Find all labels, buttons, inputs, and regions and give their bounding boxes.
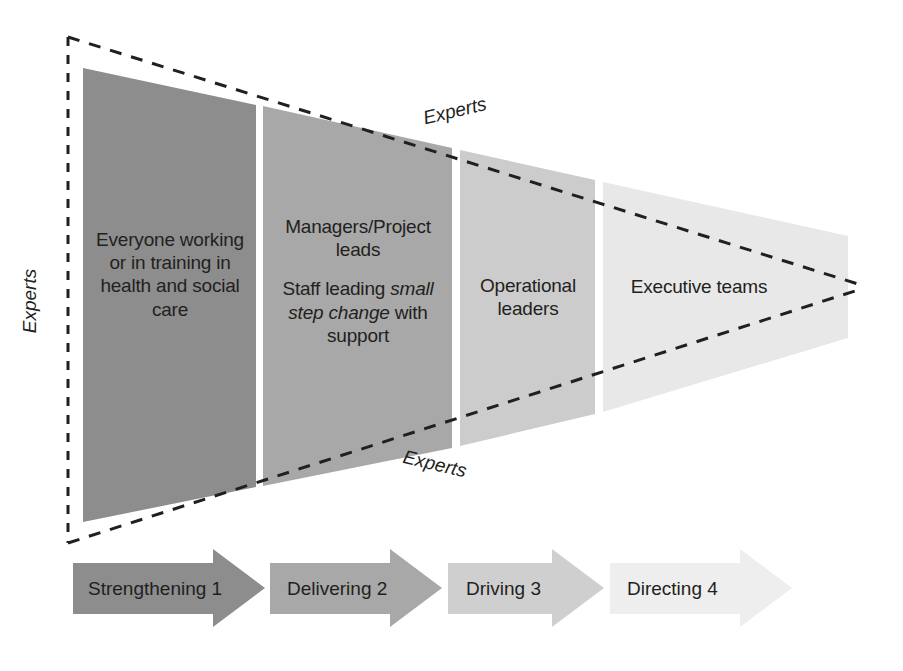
arrow-label-strengthening: Strengthening 1	[88, 578, 222, 600]
arrow-label-delivering: Delivering 2	[287, 578, 387, 600]
experts-label-left: Experts	[19, 241, 41, 361]
experts-label-left-wrap: Experts	[0, 248, 60, 358]
band-label-delivering-role: Managers/Project leads	[266, 215, 450, 261]
band-label-delivering-detail: Staff leading small step change with sup…	[266, 277, 450, 347]
arrow-label-directing: Directing 4	[627, 578, 718, 600]
band-label-delivering: Managers/Project leads Staff leading sma…	[266, 215, 450, 347]
band-label-directing-text: Executive teams	[606, 275, 792, 298]
delivering-detail-pre: Staff leading	[282, 278, 390, 299]
band-label-driving-text: Operational leaders	[462, 274, 594, 320]
diagram-canvas: Everyone working or in training in healt…	[0, 0, 903, 671]
band-label-driving: Operational leaders	[462, 274, 594, 320]
band-label-directing: Executive teams	[606, 275, 792, 298]
band-label-strengthening: Everyone working or in training in healt…	[86, 228, 254, 321]
band-label-strengthening-text: Everyone working or in training in healt…	[86, 228, 254, 321]
arrow-label-driving: Driving 3	[466, 578, 541, 600]
